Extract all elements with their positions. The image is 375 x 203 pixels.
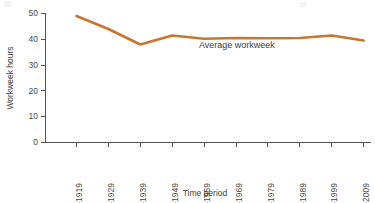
x-tick-label-1970-1979: 1970–1979 — [266, 183, 276, 203]
x-tick-label-1980-1989: 1980–1989 — [298, 183, 308, 203]
x-tick-label-2000-2009: 2000–2009 — [361, 183, 371, 203]
y-tick-label-10: 10 — [29, 111, 39, 121]
chart-container: 50 40 30 20 10 0 Workweek hours 1910–191… — [0, 0, 375, 203]
x-tick-label-1990-1999: 1990–1999 — [329, 183, 339, 203]
x-tick-label-1920-1929: 1920–1929 — [106, 183, 116, 203]
y-tick-label-40: 40 — [29, 34, 39, 44]
x-axis-title: Time period — [183, 188, 228, 198]
x-tick-label-1960-1969: 1960–1969 — [234, 183, 244, 203]
x-tick-marks — [77, 143, 364, 148]
y-tick-marks — [41, 14, 46, 143]
x-tick-label-1940-1949: 1940–1949 — [170, 183, 180, 203]
y-tick-label-0: 0 — [33, 137, 38, 147]
x-tick-label-1910-1919: 1910–1919 — [74, 183, 84, 203]
y-tick-labels: 50 40 30 20 10 0 — [29, 8, 39, 147]
y-tick-label-30: 30 — [29, 60, 39, 70]
y-tick-label-20: 20 — [29, 86, 39, 96]
x-tick-label-1930-1939: 1930–1939 — [138, 183, 148, 203]
line-chart: 50 40 30 20 10 0 Workweek hours 1910–191… — [0, 0, 375, 203]
series-annotation-average-workweek: Average workweek — [199, 40, 275, 50]
y-axis-title: Workweek hours — [5, 46, 15, 109]
y-tick-label-50: 50 — [29, 8, 39, 18]
